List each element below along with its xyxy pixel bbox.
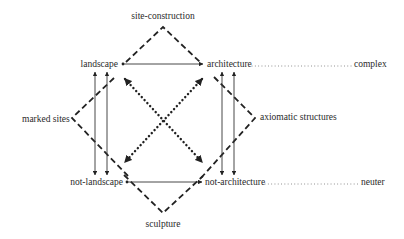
diagram-canvas: site-construction sculpture marked sites… [0,0,404,239]
architecture-label: architecture [207,59,252,69]
sculpture-label: sculpture [146,219,181,229]
landscape-node-dot [122,63,125,66]
site-construction-chevron [126,27,200,62]
not-landscape-node-dot [126,181,129,184]
axiomatic-structures-label: axiomatic structures [260,112,337,122]
expanded-field-diagram: site-construction sculpture marked sites… [0,0,404,239]
not-architecture-label: not-architecture [205,177,265,187]
complex-label: complex [354,59,387,69]
landscape-label: landscape [81,59,118,69]
sculpture-chevron [124,175,203,213]
site-construction-label: site-construction [131,11,195,21]
neuter-label: neuter [361,177,386,187]
marked-sites-label: marked sites [22,114,70,124]
marked-sites-chevron [72,78,128,176]
axiomatic-structures-chevron [201,77,255,178]
not-landscape-label: not-landscape [70,177,123,187]
